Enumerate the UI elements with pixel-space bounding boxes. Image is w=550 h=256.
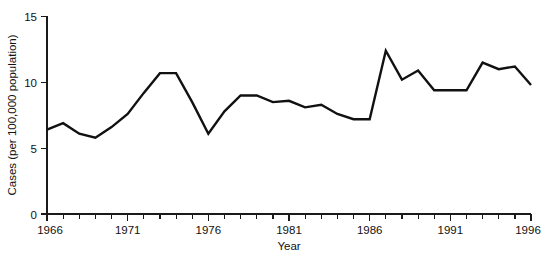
y-tick-marks	[41, 17, 47, 215]
x-tick-marks	[47, 214, 531, 221]
x-tick-label-1981: 1981	[276, 224, 302, 236]
x-tick-label-1971: 1971	[115, 224, 141, 236]
data-series-line	[47, 51, 531, 138]
line-chart-figure: 15 10 5 0	[0, 0, 550, 256]
x-axis-title: Year	[277, 240, 300, 252]
y-tick-label-0: 0	[31, 209, 37, 221]
x-tick-label-1996: 1996	[515, 224, 541, 236]
y-tick-label-15: 15	[24, 11, 37, 23]
y-axis-title: Cases (per 100,000 population)	[6, 34, 18, 195]
x-tick-label-1976: 1976	[196, 224, 222, 236]
x-tick-label-1966: 1966	[37, 224, 63, 236]
x-tick-label-1991: 1991	[438, 224, 464, 236]
y-tick-label-5: 5	[31, 143, 37, 155]
x-tick-label-1986: 1986	[357, 224, 383, 236]
y-tick-label-10: 10	[24, 77, 37, 89]
chart-svg: 15 10 5 0	[0, 0, 550, 256]
